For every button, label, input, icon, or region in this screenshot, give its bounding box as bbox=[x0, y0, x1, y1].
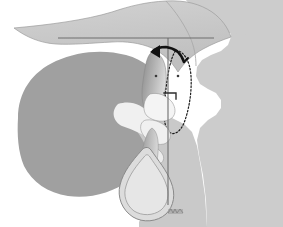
artist-signature bbox=[168, 209, 183, 214]
centroid-dot-displaced bbox=[155, 75, 158, 78]
centroid-dot-original bbox=[177, 75, 180, 78]
figure-container: Sagittal anatomical cross-section with r… bbox=[0, 0, 283, 227]
anatomical-illustration bbox=[0, 0, 283, 227]
